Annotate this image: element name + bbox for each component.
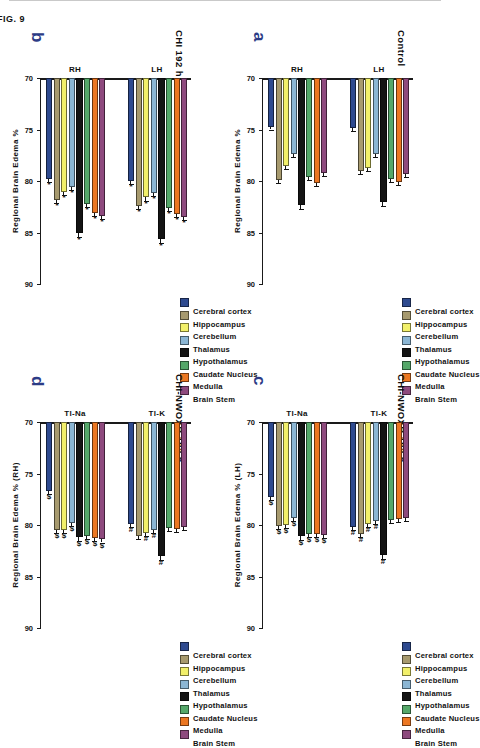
significance-marker: $ — [77, 539, 81, 548]
error-bar-cap — [299, 209, 304, 210]
legend-label: Cerebellum — [193, 332, 236, 341]
bar — [54, 78, 60, 200]
bar — [76, 422, 82, 537]
significance-marker: $ — [299, 538, 303, 547]
value-axis-tick — [259, 181, 263, 182]
legend-swatch — [180, 336, 189, 345]
error-bar-cap — [358, 174, 363, 175]
bar — [54, 422, 60, 530]
bar — [84, 78, 90, 204]
value-axis-tick — [259, 577, 263, 578]
bar — [136, 78, 142, 206]
bar — [373, 78, 379, 154]
error-bar-cap — [389, 182, 394, 183]
significance-marker: * — [160, 240, 163, 249]
bar — [151, 78, 157, 193]
value-axis-tick — [37, 577, 41, 578]
significance-marker: # — [381, 556, 385, 565]
error-bar-cap — [269, 130, 274, 131]
value-axis-title-b: Regional Brain Edema % — [11, 129, 20, 233]
value-axis-tick-label: 85 — [247, 572, 255, 581]
bar — [92, 78, 98, 213]
bar — [61, 78, 67, 192]
bar — [99, 78, 105, 216]
value-axis-tick-label: 90 — [247, 624, 255, 633]
error-bar-cap — [284, 169, 289, 170]
bar — [306, 422, 312, 534]
bar — [298, 78, 304, 205]
bar — [181, 422, 187, 527]
value-axis-tick-label: 75 — [247, 125, 255, 134]
bar — [396, 78, 402, 182]
legend-label: Hypothalamus — [193, 701, 248, 710]
value-axis-tick — [37, 130, 41, 131]
bar — [350, 78, 356, 128]
legend-swatch — [402, 667, 411, 676]
legend-swatch — [402, 717, 411, 726]
legend-swatch — [180, 717, 189, 726]
value-axis-tick — [37, 474, 41, 475]
legend-swatch — [180, 348, 189, 357]
value-axis-title-d: Regional Brain Edema % (RH) — [11, 462, 20, 588]
bar — [166, 78, 172, 208]
legend-label: Brain Stem — [193, 739, 235, 748]
legend-label: Cerebellum — [415, 332, 458, 341]
bar — [136, 422, 142, 536]
bar — [84, 422, 90, 536]
bar — [321, 78, 327, 173]
significance-marker: $ — [54, 531, 58, 540]
significance-marker: * — [101, 217, 104, 226]
value-axis-tick-label: 85 — [25, 572, 33, 581]
value-axis-tick-label: 80 — [25, 521, 33, 530]
bar — [321, 422, 327, 535]
panel-c: cCHI-NWOXR 192 h9085807570Regional Brain… — [229, 362, 439, 692]
panel-letter-a: a — [249, 32, 269, 41]
bar — [174, 422, 180, 529]
significance-marker: * — [175, 215, 178, 224]
significance-marker: $ — [307, 535, 311, 544]
legend-swatch — [180, 705, 189, 714]
bar — [314, 422, 320, 534]
significance-marker: $ — [47, 492, 51, 501]
legend-swatch — [402, 655, 411, 664]
bar — [283, 78, 289, 166]
error-bar-cap — [167, 531, 172, 532]
value-axis-tick — [37, 422, 41, 423]
error-bar-cap — [404, 521, 409, 522]
legend-swatch — [402, 311, 411, 320]
significance-marker: $ — [276, 527, 280, 536]
significance-marker: * — [78, 234, 81, 243]
legend-label: Caudate Nucleus — [193, 714, 258, 723]
bar — [143, 422, 149, 533]
value-axis-tick — [259, 130, 263, 131]
legend-swatch — [402, 298, 411, 307]
value-axis-tick — [37, 181, 41, 182]
group-label: RH — [291, 65, 303, 74]
bar — [128, 78, 134, 181]
legend-label: Hippocampus — [415, 664, 467, 673]
panel-b: bCHI 192 h9085807570Regional Brain Edema… — [7, 18, 217, 348]
value-axis-tick-label: 90 — [25, 280, 33, 289]
bar — [373, 422, 379, 521]
panel-title-a: Control — [396, 30, 407, 67]
group-label: Tl-K — [149, 409, 166, 418]
bar — [403, 78, 409, 174]
bar — [128, 422, 134, 524]
error-bar-cap — [307, 180, 312, 181]
panel-title-b: CHI 192 h — [174, 30, 185, 77]
legend-swatch — [402, 336, 411, 345]
panel-letter-c: c — [249, 376, 269, 385]
bar — [174, 78, 180, 214]
significance-marker: * — [70, 188, 73, 197]
group-label: Tl-K — [371, 409, 388, 418]
error-bar-cap — [366, 171, 371, 172]
legend-label: Cerebral cortex — [193, 651, 252, 660]
legend-label: Cerebral cortex — [415, 651, 474, 660]
error-bar-cap — [351, 131, 356, 132]
error-bar-cap — [404, 177, 409, 178]
significance-marker: $ — [314, 535, 318, 544]
group-label: RH — [69, 65, 81, 74]
group-label: LH — [373, 65, 384, 74]
